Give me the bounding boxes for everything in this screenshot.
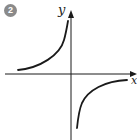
graph-canvas xyxy=(0,0,137,140)
x-axis-arrow-icon xyxy=(130,71,137,77)
hyperbola-branch-lower-right xyxy=(77,80,127,128)
y-axis-arrow-icon xyxy=(68,10,74,18)
hyperbola-branch-upper-left xyxy=(18,21,68,70)
